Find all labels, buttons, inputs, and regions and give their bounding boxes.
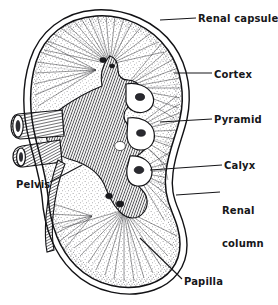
label-renal-column-line1: Renal: [222, 205, 264, 216]
papilla-lower: [134, 166, 144, 173]
kidney-body: [11, 10, 189, 294]
renal-vein-inner: [16, 120, 21, 132]
papilla-middle: [137, 130, 146, 137]
label-renal-column: Renal column: [222, 183, 264, 271]
leader-renal-column: [176, 192, 220, 195]
label-papilla: Papilla: [184, 276, 223, 287]
label-pelvis: Pelvis: [16, 179, 50, 190]
renal-artery-inner: [19, 152, 23, 162]
kidney-diagram: Renal capsule Cortex Pyramid Calyx Renal…: [0, 0, 278, 305]
leader-renal-capsule: [160, 18, 196, 20]
label-renal-column-line2: column: [222, 238, 264, 249]
label-renal-capsule: Renal capsule: [198, 13, 278, 24]
label-calyx: Calyx: [224, 160, 255, 171]
label-pyramid: Pyramid: [214, 114, 262, 125]
label-cortex: Cortex: [214, 69, 252, 80]
papilla-upper: [135, 94, 144, 101]
